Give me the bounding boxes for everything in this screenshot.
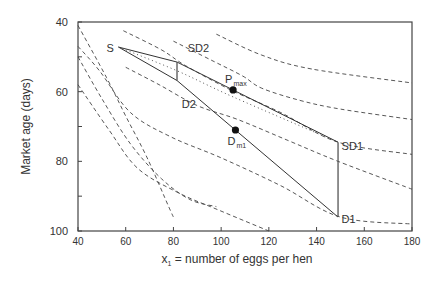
y-tick-label-80: 80	[56, 155, 68, 167]
contour-8	[216, 34, 412, 83]
x-axis-title-rest: = number of eggs per hen	[171, 252, 312, 266]
x-tick-label-140: 140	[308, 236, 325, 247]
y-tick-label-100: 100	[50, 225, 68, 237]
point-label-main: P	[225, 73, 232, 85]
x-tick-label-100: 100	[213, 236, 230, 247]
y-tick-label-40: 40	[56, 16, 68, 28]
contour-1	[78, 25, 173, 217]
y-axis-title: Market age (days)	[19, 78, 33, 175]
x-tick-label-80: 80	[168, 236, 180, 247]
annotation-SD1: SD1	[342, 140, 363, 152]
x-axis-title: x1 = number of eggs per hen	[162, 252, 313, 267]
iso-contours	[78, 25, 412, 231]
annotation-D1: D1	[342, 213, 356, 225]
upper-boundary-line	[119, 47, 338, 142]
contour-5	[126, 67, 412, 189]
x-tick-label-120: 120	[261, 236, 278, 247]
annotation-S: S	[106, 42, 113, 54]
point-marker-Dm1	[232, 126, 239, 133]
point-label-sub: m1	[236, 142, 246, 149]
contour-4	[78, 46, 412, 224]
point-label-sub: max	[233, 80, 247, 87]
x-tick-label-160: 160	[356, 236, 373, 247]
x-tick-label-40: 40	[72, 236, 84, 247]
x-tick-label-60: 60	[120, 236, 132, 247]
x-axis: 406080100120140160180	[72, 227, 420, 247]
x-tick-label-180: 180	[404, 236, 421, 247]
contour-6	[123, 31, 412, 155]
contour-2	[78, 57, 216, 207]
annotation-D2: D2	[182, 98, 196, 110]
annotation-SD2: SD2	[188, 42, 209, 54]
plot-frame	[78, 22, 412, 231]
y-axis: 406080100	[50, 16, 82, 237]
dotted-optimum-line	[119, 47, 338, 142]
point-marker-Pmax	[229, 86, 236, 93]
y-tick-label-60: 60	[56, 86, 68, 98]
point-label-main: D	[227, 135, 235, 147]
chart: PmaxDm1 SSD2D2SD1D1 40608010012014016018…	[0, 0, 440, 283]
point-label-Pmax: Pmax	[225, 73, 247, 87]
